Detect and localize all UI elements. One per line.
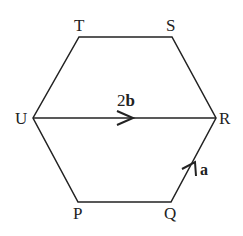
- vertex-label-U: U: [15, 110, 27, 127]
- hexagon-outline: [33, 37, 216, 202]
- vertex-label-T: T: [74, 17, 84, 34]
- vertex-label-P: P: [73, 205, 82, 222]
- vector-symbol-b: b: [126, 91, 135, 110]
- vertex-label-S: S: [166, 17, 175, 34]
- vector-label-QR: a: [200, 162, 208, 178]
- vector-coef: 2: [117, 91, 126, 110]
- vertex-label-Q: Q: [164, 205, 176, 222]
- vector-label-UR: 2b: [117, 92, 135, 109]
- vertex-label-R: R: [219, 110, 230, 127]
- hexagon-diagram: T S R Q P U 2b a: [0, 0, 243, 236]
- hexagon-figure: [0, 0, 243, 236]
